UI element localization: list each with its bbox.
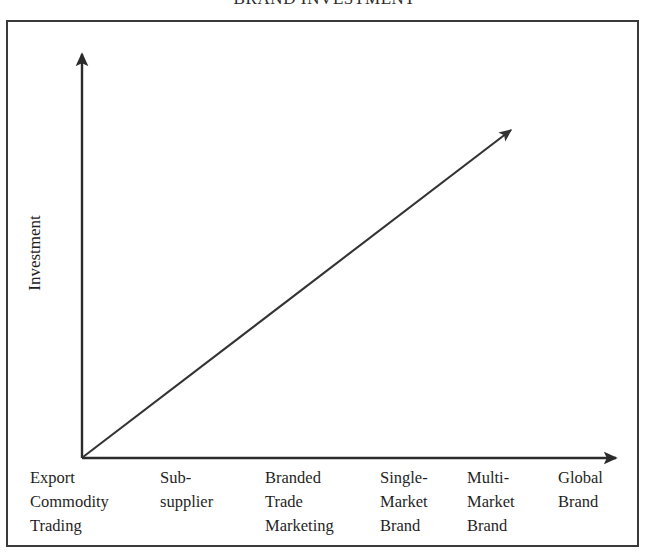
x-label-branded-trade-marketing: Branded Trade Marketing (265, 466, 334, 538)
x-label-line: Global (558, 466, 603, 490)
x-label-line: Market (467, 490, 515, 514)
x-label-line: Marketing (265, 514, 334, 538)
x-label-line: Brand (467, 514, 515, 538)
x-label-line: Market (380, 490, 428, 514)
x-label-line: Branded (265, 466, 334, 490)
x-axis-label-row: Export Commodity Trading Sub- supplier B… (0, 466, 649, 554)
y-axis-label: Investment (25, 173, 45, 333)
x-label-line: Trading (30, 514, 109, 538)
x-label-multi-market-brand: Multi- Market Brand (467, 466, 515, 538)
x-label-line: Commodity (30, 490, 109, 514)
x-label-line: Export (30, 466, 109, 490)
x-label-global-brand: Global Brand (558, 466, 603, 514)
page-title: BRAND INVESTMENT (0, 0, 649, 9)
x-label-line: Multi- (467, 466, 515, 490)
brand-investment-figure: BRAND INVESTMENT Investment Export Commo… (0, 0, 649, 554)
x-label-line: Brand (380, 514, 428, 538)
x-label-line: Sub- (160, 466, 213, 490)
x-label-single-market-brand: Single- Market Brand (380, 466, 428, 538)
x-label-sub-supplier: Sub- supplier (160, 466, 213, 514)
x-label-line: Brand (558, 490, 603, 514)
x-label-export-commodity-trading: Export Commodity Trading (30, 466, 109, 538)
x-label-line: supplier (160, 490, 213, 514)
x-label-line: Trade (265, 490, 334, 514)
x-label-line: Single- (380, 466, 428, 490)
